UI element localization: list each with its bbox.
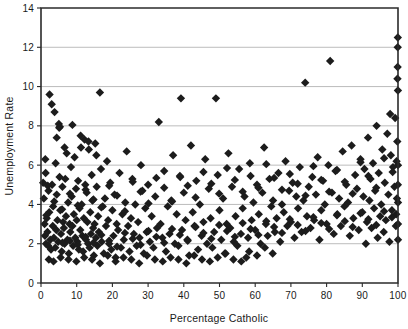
y-tick-label: 0 <box>28 278 34 289</box>
y-tick-label: 10 <box>22 81 34 92</box>
y-tick-label: 6 <box>28 160 34 171</box>
y-tick-label: 12 <box>22 42 34 53</box>
x-tick-label: 70 <box>285 290 297 301</box>
x-tick-label: 10 <box>71 290 83 301</box>
y-tick-label: 14 <box>22 3 34 14</box>
chart-canvas: 02468101214 0102030405060708090100 Perce… <box>0 0 408 329</box>
scatter-chart: 02468101214 0102030405060708090100 Perce… <box>0 0 408 329</box>
x-tick-label: 90 <box>357 290 369 301</box>
x-tick-label: 50 <box>214 290 226 301</box>
x-tick-label: 0 <box>38 290 44 301</box>
y-tick-label: 2 <box>28 238 34 249</box>
x-tick-label: 40 <box>178 290 190 301</box>
x-tick-label: 20 <box>107 290 119 301</box>
x-tick-label: 60 <box>249 290 261 301</box>
chart-background <box>0 0 408 329</box>
x-tick-label: 100 <box>389 290 407 301</box>
y-tick-label: 4 <box>28 199 34 210</box>
y-axis-title: Unemployment Rate <box>3 96 15 195</box>
x-axis-title: Percentage Catholic <box>170 312 268 324</box>
x-tick-label: 80 <box>321 290 333 301</box>
x-tick-label: 30 <box>142 290 154 301</box>
y-tick-label: 8 <box>28 120 34 131</box>
